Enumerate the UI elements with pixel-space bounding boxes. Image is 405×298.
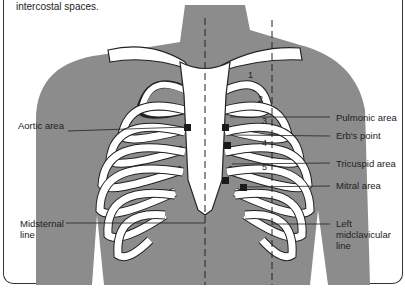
label-aortic-area: Aortic area (18, 120, 64, 131)
chest-illustration: 1 2 3 4 5 (0, 0, 405, 298)
aortic-marker (184, 124, 191, 131)
rib-number-2: 2 (258, 94, 263, 104)
mitral-marker (240, 184, 247, 191)
rib-number-5: 5 (262, 162, 267, 172)
label-left-midclavicular-line: Left midclavicular line (336, 218, 391, 251)
rib-number-1: 1 (248, 70, 253, 80)
label-tricuspid-area: Tricuspid area (336, 158, 396, 169)
rib-number-4: 4 (262, 138, 267, 148)
label-midsternal-line: Midsternal line (20, 218, 64, 240)
tricuspid-marker (222, 177, 229, 184)
label-erbs-point: Erb's point (336, 130, 381, 141)
rib-number-3: 3 (262, 116, 267, 126)
erbs-marker (224, 142, 231, 149)
label-pulmonic-area: Pulmonic area (336, 112, 397, 123)
label-mitral-area: Mitral area (336, 180, 381, 191)
pulmonic-marker (222, 124, 229, 131)
